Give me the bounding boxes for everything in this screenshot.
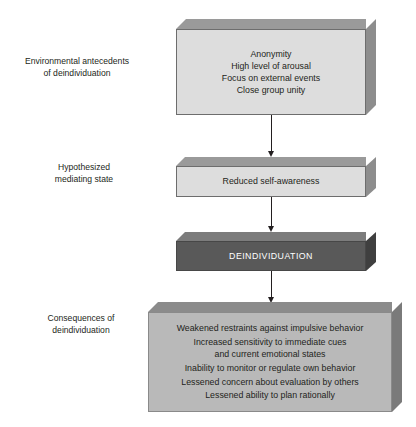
box-text-line: Inability to monitor or regulate own beh… [185, 362, 356, 375]
stage-label-antecedents: Environmental antecedents of deindividua… [8, 56, 146, 79]
box-text-line: Focus on external events [222, 72, 320, 84]
box-side-face [366, 19, 376, 115]
box-text-line: Close group unity [237, 84, 305, 96]
box-side-face [366, 157, 376, 197]
box-text-line: Reduced self-awareness [223, 175, 320, 187]
box-front-face: Weakened restraints against impulsive be… [148, 312, 392, 412]
box-top-face [176, 19, 366, 29]
box-side-face [366, 232, 376, 271]
box-text-line: DEINDIVIDUATION [229, 250, 313, 262]
box-front-face: Reduced self-awareness [176, 166, 366, 197]
box-text-line: Anonymity [250, 48, 291, 60]
box-deindividuation: DEINDIVIDUATION [176, 232, 376, 271]
box-text-line: Increased sensitivity to immediate cues … [193, 336, 346, 361]
arrow-deindividuation-to-consequences [267, 271, 276, 303]
arrow-antecedents-to-mediating [267, 115, 276, 157]
stage-label-mediating-state: Hypothesized mediating state [22, 162, 146, 185]
box-text-line: Lessened ability to plan rationally [205, 389, 335, 402]
arrow-shaft [271, 197, 272, 226]
arrow-shaft [271, 115, 272, 151]
box-top-face [176, 232, 366, 241]
box-top-face [176, 157, 366, 166]
arrow-mediating-to-deindividuation [267, 197, 276, 232]
box-front-face: Anonymity High level of arousal Focus on… [176, 29, 366, 115]
diagram-canvas: Environmental antecedents of deindividua… [0, 0, 416, 427]
box-text-line: High level of arousal [231, 60, 311, 72]
stage-label-consequences: Consequences of deindividuation [22, 313, 140, 336]
box-text-line: Lessened concern about evaluation by oth… [181, 376, 359, 389]
box-environmental-antecedents: Anonymity High level of arousal Focus on… [176, 19, 376, 115]
arrow-shaft [271, 271, 272, 297]
box-top-face [148, 302, 392, 312]
box-reduced-self-awareness: Reduced self-awareness [176, 157, 376, 197]
box-side-face [392, 302, 402, 412]
box-consequences-of-deindividuation: Weakened restraints against impulsive be… [148, 302, 402, 412]
box-front-face: DEINDIVIDUATION [176, 241, 366, 271]
box-text-line: Weakened restraints against impulsive be… [177, 322, 364, 335]
